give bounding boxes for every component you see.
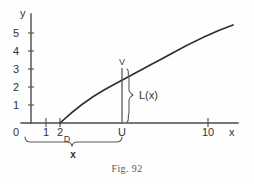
- point-label-V: V: [119, 57, 125, 67]
- y-tick-label-3: 3: [13, 63, 19, 75]
- x-tick-label-U: U: [118, 126, 126, 138]
- x-tick-label-origin: 0: [13, 126, 19, 138]
- function-curve: [60, 25, 233, 123]
- x-tick-label-2: 2: [57, 126, 63, 138]
- x-axis-label: x: [229, 126, 235, 138]
- brace-label-L: L(x): [139, 89, 158, 101]
- x-tick-label-1: 1: [43, 126, 49, 138]
- y-tick-label-5: 5: [13, 27, 19, 39]
- y-tick-label-2: 2: [13, 81, 19, 93]
- brace-label-x: x: [70, 149, 76, 160]
- figure-caption: Fig. 92: [0, 163, 254, 174]
- brace-horizontal-x: [25, 137, 122, 146]
- y-tick-label-4: 4: [13, 45, 19, 57]
- plot-canvas: y x 1 2 3 4 5 0 1 2 U 10 D V L(x) x: [0, 0, 254, 184]
- figure-container: y x 1 2 3 4 5 0 1 2 U 10 D V L(x) x Fig.…: [0, 0, 254, 184]
- x-tick-label-10: 10: [202, 126, 214, 138]
- point-label-D: D: [64, 134, 71, 144]
- y-tick-label-1: 1: [13, 99, 19, 111]
- y-axis-label: y: [20, 7, 26, 19]
